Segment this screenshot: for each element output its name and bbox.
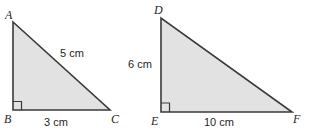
measure-label-def-leg: 6 cm	[128, 59, 152, 70]
vertex-label-f: F	[293, 113, 300, 125]
measure-label-def-base: 10 cm	[204, 117, 234, 128]
measure-label-abc-hypotenuse: 5 cm	[60, 48, 84, 59]
vertex-label-a: A	[5, 9, 12, 21]
vertex-label-b: B	[4, 113, 11, 125]
figure-canvas: A B C D E F 5 cm 3 cm 6 cm 10 cm	[0, 0, 312, 137]
vertex-label-d: D	[154, 4, 163, 16]
triangle-def-shape	[161, 18, 292, 112]
vertex-label-c: C	[111, 113, 119, 125]
measure-label-abc-base: 3 cm	[44, 117, 68, 128]
triangle-abc-shape	[13, 22, 110, 110]
vertex-label-e: E	[151, 115, 158, 127]
